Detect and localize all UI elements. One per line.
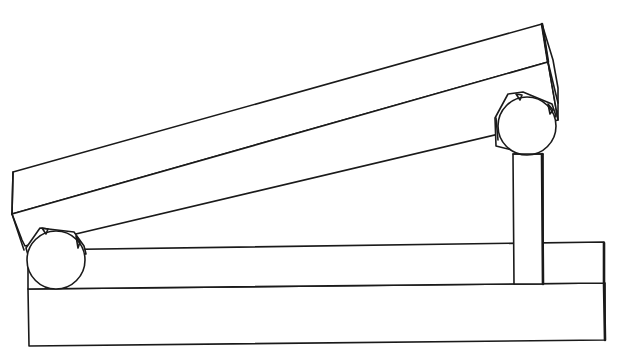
support-post — [513, 154, 543, 284]
inclined-beam — [12, 24, 558, 250]
diagram-canvas: Line drawing of an inclined beam resting… — [0, 0, 618, 356]
beam-on-rollers-drawing — [0, 0, 618, 356]
right-roller — [495, 92, 556, 155]
base-slab — [28, 283, 605, 346]
left-roller — [26, 228, 86, 289]
